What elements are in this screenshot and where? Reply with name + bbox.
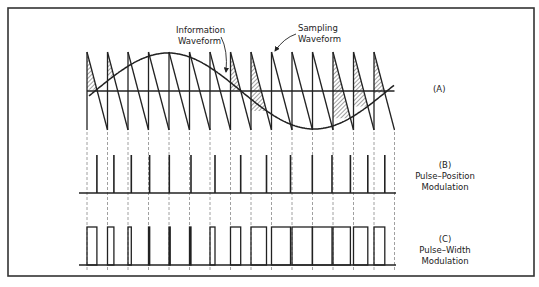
pwm-pulse	[190, 227, 192, 265]
pulse-modulation-diagram: Information Waveform Sampling Waveform (…	[0, 0, 539, 287]
sampling-waveform-label-2: Waveform	[298, 34, 341, 44]
pwm-pulse	[333, 227, 350, 265]
pwm-pulse	[169, 227, 170, 265]
pulse-position-pulses	[97, 155, 385, 193]
hatched-sample-areas	[87, 52, 385, 118]
information-waveform-label-1: Information	[176, 25, 225, 35]
pulse-width-pulses	[87, 227, 385, 265]
panel-c-title-2: Modulation	[421, 256, 468, 266]
pwm-pulse	[231, 227, 241, 265]
sampling-arrow-icon	[275, 34, 296, 51]
panel-a-label: (A)	[433, 84, 445, 94]
pwm-pulse	[272, 227, 291, 265]
panel-b-label: (B)	[439, 160, 451, 170]
pwm-pulse	[210, 227, 215, 265]
panel-c-title-1: Pulse–Width	[419, 245, 470, 255]
pwm-pulse	[149, 227, 150, 265]
information-waveform-label-2: Waveform	[178, 36, 221, 46]
panel-c-label: (C)	[439, 234, 452, 244]
panel-b-title-1: Pulse–Position	[415, 171, 475, 181]
pwm-pulse	[354, 227, 368, 265]
pwm-pulse	[128, 227, 131, 265]
pwm-pulse	[292, 227, 312, 265]
pwm-pulse	[374, 227, 385, 265]
pwm-pulse	[108, 227, 114, 265]
pwm-pulse	[251, 227, 267, 265]
pwm-pulse	[87, 227, 97, 265]
information-arrow-icon	[221, 37, 226, 72]
sampling-waveform-label-1: Sampling	[298, 23, 338, 33]
pwm-pulse	[313, 227, 333, 265]
panel-b-title-2: Modulation	[421, 182, 468, 192]
